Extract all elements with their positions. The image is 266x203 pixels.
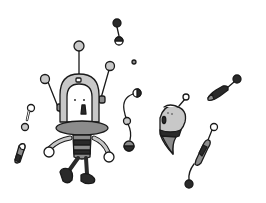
capsule-part-bottom-right (185, 124, 218, 189)
capsule-part-right (208, 75, 241, 100)
illustration (0, 0, 266, 203)
robot-illustration (0, 0, 266, 203)
battery-part-left (15, 144, 25, 163)
bone-part-left (22, 105, 35, 131)
small-bolt (132, 60, 136, 64)
main-robot (41, 41, 115, 184)
chain-part (124, 89, 142, 151)
ghost-robot-part (160, 94, 189, 154)
dumbbell-part-top (113, 19, 123, 45)
